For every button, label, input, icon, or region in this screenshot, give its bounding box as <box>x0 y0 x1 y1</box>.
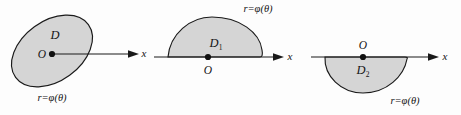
origin-dot <box>360 54 366 60</box>
figure-panel-2: D1 O x r=φ(θ) <box>150 0 305 115</box>
origin-dot <box>205 54 211 60</box>
curve-equation-label: r=φ(θ) <box>37 92 67 104</box>
origin-dot <box>49 51 55 57</box>
region-label-d1-base: D <box>209 36 219 50</box>
curve-equation-label: r=φ(θ) <box>390 95 420 107</box>
x-axis-arrowhead <box>128 50 139 58</box>
x-axis-label: x <box>141 47 147 59</box>
curve-equation-label: r=φ(θ) <box>243 3 273 15</box>
figure-panel-1: D O x r=φ(θ) <box>0 0 150 115</box>
region-label-d: D <box>49 28 59 42</box>
polar-regions-figure: D O x r=φ(θ) D1 O x r=φ(θ) O D2 x r=φ(θ <box>0 0 461 115</box>
origin-label-o: O <box>38 48 47 60</box>
x-axis-label: x <box>442 50 448 62</box>
figure-panel-3: O D2 x r=φ(θ) <box>305 0 461 115</box>
region-label-d1-subscript: 1 <box>219 43 223 52</box>
x-axis-arrowhead <box>273 53 284 61</box>
x-axis-label: x <box>287 50 293 62</box>
region-label-d2-subscript: 2 <box>366 70 370 79</box>
origin-label-o: O <box>204 64 213 76</box>
x-axis-arrowhead <box>428 53 439 61</box>
region-label-d2-base: D <box>356 63 366 77</box>
region-d-shape <box>0 0 106 101</box>
origin-label-o: O <box>359 39 368 51</box>
